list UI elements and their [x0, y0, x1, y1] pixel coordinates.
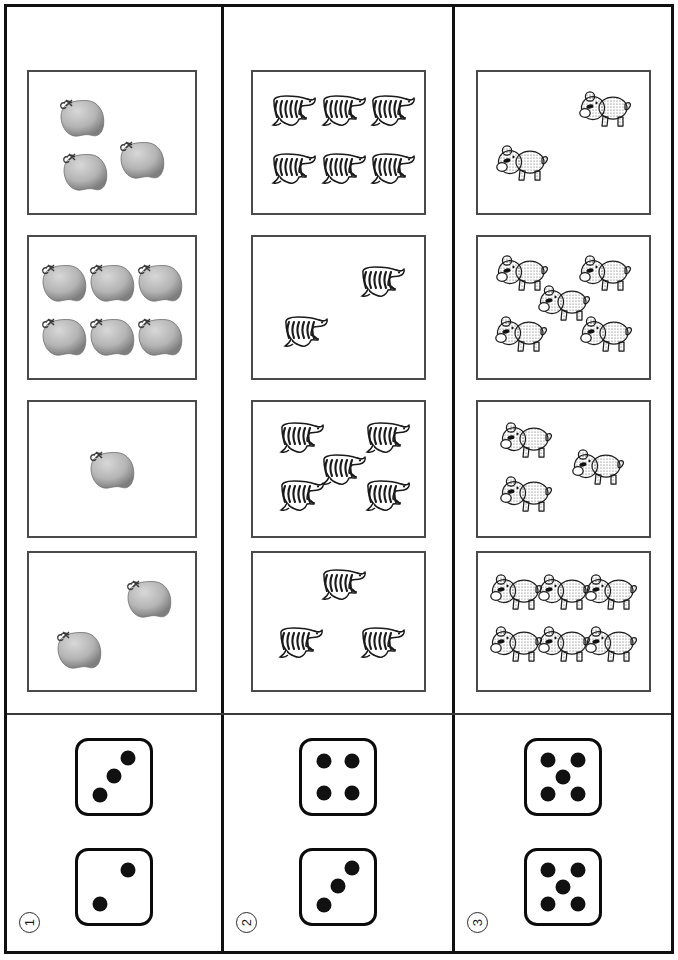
zebra-item: [359, 146, 417, 196]
picture-box-c1r3: [27, 400, 197, 538]
picture-box-c1r4: [27, 551, 197, 692]
zebra-icon: [268, 473, 326, 519]
items-layer-c2r2: [253, 237, 424, 378]
dice-area-column-1: [7, 716, 221, 951]
die-pip: [556, 880, 571, 895]
zebra-icon: [354, 473, 412, 519]
apple-icon: [86, 255, 138, 305]
zebra-item: [267, 620, 325, 670]
dice-area-column-2: [224, 716, 452, 951]
die-pip: [571, 786, 586, 801]
zebra-item: [349, 620, 407, 670]
picture-box-c1r2: [27, 235, 197, 380]
picture-box-c2r3: [251, 400, 426, 538]
die-pip: [92, 897, 107, 912]
apple-icon: [86, 442, 138, 492]
apple-icon: [123, 571, 175, 621]
bear-item: [583, 571, 639, 617]
items-layer-c1r4: [29, 553, 195, 690]
picture-box-c2r4: [251, 551, 426, 692]
apple-item: [134, 255, 186, 309]
bear-icon: [577, 88, 633, 130]
die-c2-top[interactable]: [299, 738, 377, 816]
column-3: 3: [455, 7, 671, 951]
picture-box-c3r4: [476, 551, 651, 692]
die-c2-bottom[interactable]: [299, 848, 377, 926]
die-pip: [540, 753, 555, 768]
picture-box-c3r2: [476, 235, 651, 380]
bear-item: [498, 473, 554, 519]
die-pip: [345, 785, 360, 800]
bear-icon: [498, 473, 554, 515]
bear-icon: [583, 571, 639, 613]
die-c3-bottom[interactable]: [524, 848, 602, 926]
bear-icon: [498, 419, 554, 461]
die-pip: [571, 896, 586, 911]
bear-item: [494, 142, 550, 188]
apple-item: [56, 90, 108, 144]
bear-item: [498, 419, 554, 465]
bear-item: [583, 623, 639, 669]
bear-item: [578, 313, 634, 359]
zebra-icon: [359, 88, 417, 134]
items-layer-c2r1: [253, 72, 424, 213]
zebra-item: [359, 88, 417, 138]
column-2: 2: [224, 7, 452, 951]
die-pip: [345, 754, 360, 769]
die-pip: [121, 751, 136, 766]
apple-item: [134, 309, 186, 363]
apple-icon: [56, 90, 108, 140]
bear-icon: [570, 446, 626, 488]
picture-box-c1r1: [27, 70, 197, 215]
items-layer-c3r2: [478, 237, 649, 378]
die-pip: [92, 788, 107, 803]
die-pip: [540, 863, 555, 878]
bear-item: [570, 446, 626, 492]
apple-icon: [38, 309, 90, 359]
zebra-item: [272, 309, 330, 359]
picture-box-c3r3: [476, 400, 651, 538]
bear-item: [493, 313, 549, 359]
zebra-item: [268, 473, 326, 523]
die-pip: [571, 753, 586, 768]
zebra-item: [349, 259, 407, 309]
apple-item: [116, 132, 168, 186]
bear-icon: [583, 623, 639, 665]
apple-icon: [134, 309, 186, 359]
dice-area-column-3: [455, 716, 671, 951]
zebra-item: [354, 473, 412, 523]
zebra-icon: [349, 259, 407, 305]
column-number-3: 3: [467, 912, 488, 933]
die-pip: [121, 862, 136, 877]
die-c1-bottom[interactable]: [75, 848, 153, 926]
die-pip: [331, 879, 346, 894]
apple-item: [38, 309, 90, 363]
die-pip: [540, 896, 555, 911]
bear-icon: [493, 313, 549, 355]
apple-item: [38, 255, 90, 309]
zebra-icon: [349, 620, 407, 666]
die-pip: [316, 898, 331, 913]
apple-icon: [116, 132, 168, 182]
die-pip: [540, 786, 555, 801]
items-layer-c3r4: [478, 553, 649, 690]
items-layer-c1r1: [29, 72, 195, 213]
die-c3-top[interactable]: [524, 738, 602, 816]
die-pip: [556, 770, 571, 785]
apple-icon: [53, 622, 105, 672]
die-pip: [107, 769, 122, 784]
items-layer-c2r3: [253, 402, 424, 536]
zebra-icon: [359, 146, 417, 192]
picture-box-c3r1: [476, 70, 651, 215]
die-c1-top[interactable]: [75, 738, 153, 816]
die-pip: [316, 754, 331, 769]
apple-item: [86, 309, 138, 363]
items-layer-c1r3: [29, 402, 195, 536]
column-number-2: 2: [236, 912, 257, 933]
zebra-item: [310, 562, 368, 612]
column-1: 1: [7, 7, 221, 951]
die-pip: [316, 785, 331, 800]
items-layer-c3r1: [478, 72, 649, 213]
items-layer-c2r4: [253, 553, 424, 690]
bear-icon: [578, 313, 634, 355]
